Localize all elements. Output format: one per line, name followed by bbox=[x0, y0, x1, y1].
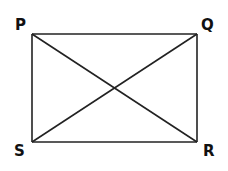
vertex-label-q: Q bbox=[201, 18, 214, 33]
vertex-label-p: P bbox=[15, 18, 26, 33]
rectangle-diagram bbox=[0, 0, 228, 171]
vertex-label-r: R bbox=[203, 144, 215, 159]
vertex-label-s: S bbox=[14, 144, 25, 159]
